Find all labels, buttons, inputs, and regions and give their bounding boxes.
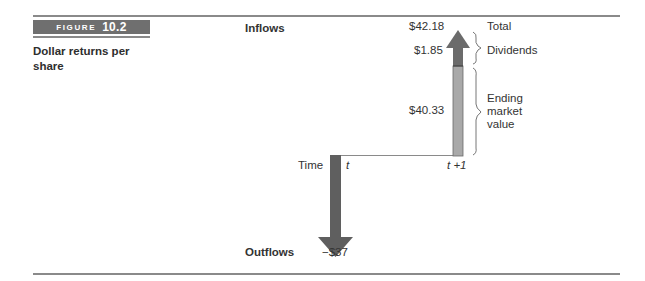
ending-label: Ending market value — [487, 92, 523, 131]
outflow-value: −$37 — [322, 246, 348, 259]
dividends-label: Dividends — [487, 44, 538, 57]
dividends-brace-icon — [473, 32, 481, 64]
ending-label-line-3: value — [487, 118, 523, 131]
ending-value-bar — [453, 66, 463, 156]
total-value: $42.18 — [409, 20, 444, 33]
ending-value-brace-icon — [473, 68, 481, 155]
ending-value: $40.33 — [409, 104, 444, 117]
inflows-label: Inflows — [245, 22, 285, 35]
ending-label-line-1: Ending — [487, 92, 523, 105]
total-label: Total — [487, 20, 511, 33]
dividends-value: $1.85 — [414, 44, 443, 57]
outflows-label: Outflows — [245, 246, 294, 259]
cash-flow-diagram — [0, 0, 645, 281]
outflow-bar — [330, 155, 341, 239]
ending-label-line-2: market — [487, 105, 523, 118]
time-label: Time — [298, 159, 323, 172]
time-t-label: t — [346, 159, 349, 172]
dividends-bar — [453, 47, 463, 66]
inflow-arrowhead-icon — [446, 30, 470, 48]
time-t1-label: t +1 — [447, 159, 467, 172]
